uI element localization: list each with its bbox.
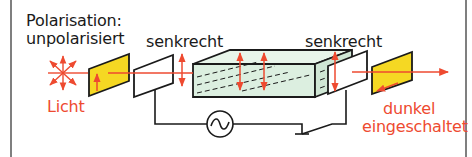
analyzer-filter	[372, 52, 412, 94]
output-state-label: dunkel	[383, 100, 435, 118]
polarizer-2-label: senkrecht	[305, 33, 382, 51]
polarizer-2-frame	[134, 55, 173, 97]
output-mode-label: eingeschaltet	[362, 118, 468, 136]
light-label: Licht	[47, 98, 85, 116]
ac-voltage-source-icon	[207, 111, 233, 137]
polarizer-1-filter	[89, 54, 129, 96]
lcd-polarization-diagram: Polarisation: unpolarisiert Licht senkre…	[0, 0, 472, 157]
source-state-label: unpolarisiert	[26, 30, 124, 48]
polarizer-1-label: senkrecht	[146, 33, 223, 51]
polarisation-title: Polarisation:	[26, 12, 122, 30]
